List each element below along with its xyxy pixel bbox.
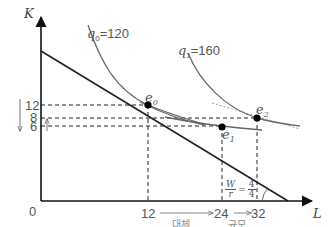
y-axis-label: K	[24, 7, 34, 20]
e2-subscript: 2	[264, 110, 269, 119]
slope-equals: =	[238, 185, 246, 195]
x-axis-label: L	[313, 207, 322, 220]
isoquant-diagram	[0, 0, 335, 227]
point-e0-label: e0	[145, 91, 158, 107]
slope-angle-arc	[262, 188, 268, 201]
point-e2-label: e2	[256, 103, 269, 119]
e0-subscript: 0	[153, 98, 158, 107]
scale-effect-label: 규모 효과	[228, 218, 246, 227]
slope-denominator: r	[228, 190, 232, 199]
q0-value: =120	[100, 26, 129, 41]
e1-subscript: 1	[230, 135, 235, 144]
isoquant-q1-label: q1=160	[178, 44, 220, 60]
y-tick-6: 6	[30, 120, 37, 133]
origin-label: 0	[29, 205, 36, 218]
isoquant-q0-label: q0=120	[87, 27, 129, 43]
point-e1-label: e1	[222, 128, 235, 144]
x-tick-12: 12	[141, 207, 155, 220]
e0-symbol: e	[145, 90, 153, 105]
q1-value: =160	[191, 43, 220, 58]
slope-value-denominator: 4	[249, 190, 255, 199]
isoquant-q1	[188, 53, 300, 126]
x-tick-32: 32	[251, 207, 265, 220]
scale-line1: 규모	[228, 218, 246, 227]
e2-symbol: e	[256, 102, 264, 117]
substitution-effect-label: 대체 효과	[172, 218, 190, 227]
e1-symbol: e	[222, 127, 230, 142]
substitution-line1: 대체	[172, 218, 190, 227]
slope-annotation: W r = 4 4	[225, 180, 256, 199]
x-tick-24: 24	[214, 207, 228, 220]
